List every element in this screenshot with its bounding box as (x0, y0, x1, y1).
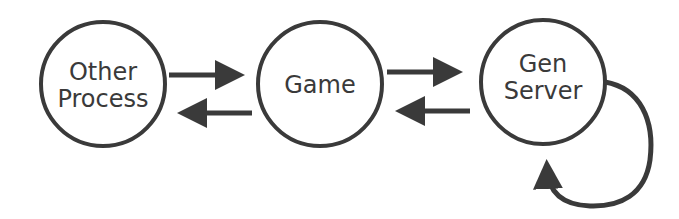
node-game: Game (258, 22, 382, 146)
node-other-process: Other Process (41, 22, 165, 146)
process-diagram: Other Process Game Gen Server (0, 0, 679, 219)
node-label-line-2: Server (504, 77, 583, 105)
node-label-line-1: Game (284, 71, 355, 99)
node-gen-server: Gen Server (481, 20, 605, 144)
node-label-line-1: Gen (519, 50, 568, 78)
node-label-line-1: Other (69, 58, 137, 86)
node-label-line-2: Process (57, 85, 148, 113)
